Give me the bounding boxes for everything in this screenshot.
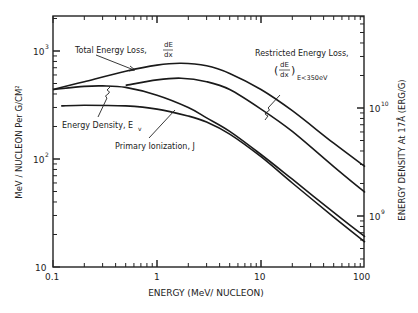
x-tick-0.1: 0.1 [45, 272, 59, 282]
total-frac-den: dx [164, 51, 173, 59]
density-label: Energy Density, E [62, 121, 133, 130]
y-tick-1000-exp: 3 [45, 43, 49, 50]
primary-label: Primary Ionization, J [115, 142, 195, 151]
right-tick-1e10-exp: 10 [381, 100, 389, 107]
curve-energy-density [53, 86, 365, 237]
total-frac-num: dE [164, 41, 173, 49]
curves [53, 63, 365, 242]
y-tick-1000: 10 [33, 47, 45, 57]
curve-restricted-energy-loss [126, 78, 365, 192]
x-tick-1: 1 [154, 272, 160, 282]
right-tick-1e10: 10 [369, 104, 381, 114]
y-tick-100: 10 [33, 155, 45, 165]
density-sub: v [138, 125, 142, 132]
y-axis-label: MeV / NUCLEON Per G/CM² [14, 85, 24, 198]
x-tick-10: 10 [254, 272, 266, 282]
restricted-label: Restricted Energy Loss, [255, 49, 349, 58]
right-tick-1e9-exp: 9 [381, 208, 385, 215]
x-tick-100: 100 [353, 272, 370, 282]
right-tick-1e9: 10 [369, 212, 381, 222]
y-tick-10: 10 [35, 263, 47, 273]
x-axis-label: ENERGY (MeV/ NUCLEON) [148, 288, 264, 298]
restricted-sub: E<350eV [297, 74, 328, 82]
paren-left: ( [274, 64, 278, 77]
y-axis-right-label: ENERGY DENSITY At 17Å (ERG/G) [396, 79, 407, 220]
paren-right: ) [291, 64, 295, 77]
y-tick-100-exp: 2 [45, 151, 49, 158]
chart: Total Energy Loss, dE dx Restricted Ener… [0, 0, 418, 313]
total-label: Total Energy Loss, [74, 46, 147, 55]
restricted-frac-den: dx [280, 71, 289, 79]
restricted-frac-num: dE [280, 61, 289, 69]
